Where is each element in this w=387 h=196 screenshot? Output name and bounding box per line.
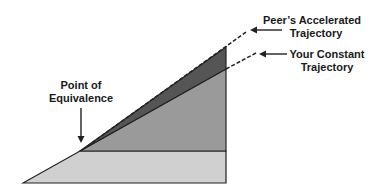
poe-label-line1: Point of [46,79,116,92]
constant-trajectory-extension [226,53,256,69]
your-trajectory-label: Your Constant Trajectory [284,48,370,74]
yours-label-line1: Your Constant [284,48,370,61]
poe-arrowhead-icon [78,136,85,143]
peer-label-line1: Peer’s Accelerated [262,14,362,27]
poe-label-line2: Equivalence [46,92,116,105]
yours-arrowhead-icon [259,51,266,58]
peer-arrowhead-icon [250,27,257,34]
peer-trajectory-label: Peer’s Accelerated Trajectory [262,14,362,40]
point-of-equivalence-label: Point of Equivalence [46,79,116,105]
peer-label-line2: Trajectory [262,27,362,40]
yours-label-line2: Trajectory [284,61,370,74]
base-region [23,151,226,183]
